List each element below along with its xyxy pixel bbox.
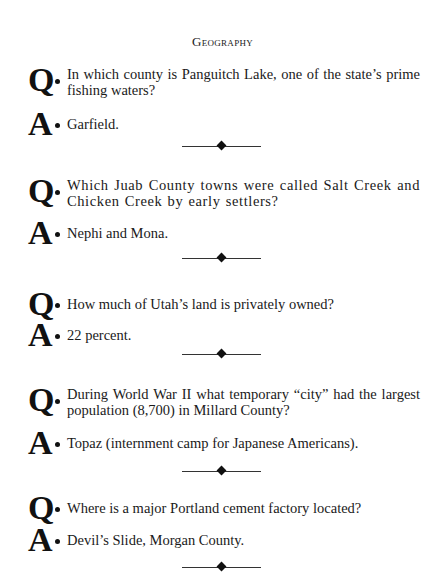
question: Q How much of Utah’s land is privately o… bbox=[28, 290, 420, 312]
question: Q Where is a major Portland cement facto… bbox=[28, 494, 420, 516]
dot-icon bbox=[55, 232, 60, 237]
question: Q During World War II what temporary “ci… bbox=[28, 386, 420, 418]
a-letter: A bbox=[28, 110, 53, 138]
dot-icon bbox=[55, 190, 60, 195]
a-letter: A bbox=[28, 219, 53, 247]
qa-item: Q In which county is Panguitch Lake, one… bbox=[28, 66, 420, 98]
dot-icon bbox=[55, 334, 60, 339]
question-text: In which county is Panguitch Lake, one o… bbox=[67, 66, 420, 98]
answer-text: Garfield. bbox=[67, 110, 420, 132]
question: Q In which county is Panguitch Lake, one… bbox=[28, 66, 420, 98]
dot-icon bbox=[55, 399, 60, 404]
answer-text: Nephi and Mona. bbox=[67, 219, 420, 241]
q-letter: Q bbox=[28, 290, 54, 318]
a-letter: A bbox=[28, 429, 53, 457]
divider bbox=[182, 354, 261, 355]
answer-text: Devil’s Slide, Morgan County. bbox=[67, 526, 420, 548]
dot-icon bbox=[55, 442, 60, 447]
q-letter: Q bbox=[28, 177, 54, 205]
q-letter: Q bbox=[28, 494, 54, 522]
question-text: Which Juab County towns were called Salt… bbox=[67, 177, 420, 209]
q-letter: Q bbox=[28, 386, 54, 414]
q-letter: Q bbox=[28, 66, 54, 94]
answer-block: A Topaz (internment camp for Japanese Am… bbox=[28, 429, 420, 451]
answer-block: A Garfield. bbox=[28, 110, 420, 132]
qa-item: Q Which Juab County towns were called Sa… bbox=[28, 177, 420, 209]
answer: A 22 percent. bbox=[28, 321, 420, 343]
diamond-icon bbox=[217, 141, 227, 151]
question-text: During World War II what temporary “city… bbox=[67, 386, 420, 418]
dot-icon bbox=[55, 303, 60, 308]
answer-block: A Devil’s Slide, Morgan County. bbox=[28, 526, 420, 548]
answer: A Garfield. bbox=[28, 110, 420, 132]
answer-block: A 22 percent. bbox=[28, 321, 420, 343]
qa-item: Q Where is a major Portland cement facto… bbox=[28, 494, 420, 516]
divider bbox=[182, 146, 261, 147]
qa-item: Q How much of Utah’s land is privately o… bbox=[28, 290, 420, 312]
diamond-icon bbox=[217, 253, 227, 263]
question: Q Which Juab County towns were called Sa… bbox=[28, 177, 420, 209]
divider bbox=[182, 258, 261, 259]
answer: A Devil’s Slide, Morgan County. bbox=[28, 526, 420, 548]
question-text: Where is a major Portland cement factory… bbox=[67, 494, 420, 516]
answer-text: Topaz (internment camp for Japanese Amer… bbox=[67, 429, 420, 451]
question-text: How much of Utah’s land is privately own… bbox=[67, 290, 420, 312]
divider bbox=[182, 567, 261, 568]
answer-block: A Nephi and Mona. bbox=[28, 219, 420, 241]
dot-icon bbox=[55, 539, 60, 544]
diamond-icon bbox=[217, 562, 227, 572]
diamond-icon bbox=[217, 466, 227, 476]
divider bbox=[182, 471, 261, 472]
answer-text: 22 percent. bbox=[67, 321, 420, 343]
dot-icon bbox=[55, 123, 60, 128]
section-header: Geography bbox=[0, 34, 445, 50]
a-letter: A bbox=[28, 321, 53, 349]
qa-item: Q During World War II what temporary “ci… bbox=[28, 386, 420, 418]
a-letter: A bbox=[28, 526, 53, 554]
answer: A Topaz (internment camp for Japanese Am… bbox=[28, 429, 420, 451]
dot-icon bbox=[55, 79, 60, 84]
diamond-icon bbox=[217, 349, 227, 359]
dot-icon bbox=[55, 507, 60, 512]
answer: A Nephi and Mona. bbox=[28, 219, 420, 241]
